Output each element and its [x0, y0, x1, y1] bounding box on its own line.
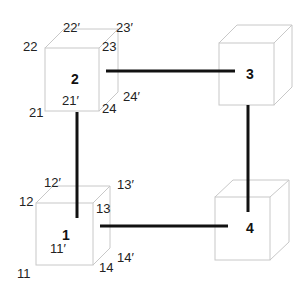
- cube-2-label: 2: [71, 71, 79, 87]
- corner-label-22: 22: [23, 39, 37, 54]
- cube-4-label: 4: [246, 220, 254, 236]
- cube-3: [219, 25, 292, 105]
- corner-label-22p: 22′: [63, 20, 80, 35]
- diagram-canvas: 2 3 1 4 21 21′ 22 22′ 23 23′ 24 24′ 11 1…: [0, 0, 307, 294]
- cube-3-side-face: [274, 25, 292, 105]
- cube-3-top-face: [219, 25, 292, 43]
- corner-label-12: 12: [19, 194, 33, 209]
- corner-label-24p: 24′: [123, 89, 140, 104]
- corner-label-13p: 13′: [117, 177, 134, 192]
- corner-label-11: 11: [17, 266, 31, 281]
- corner-label-14: 14: [99, 260, 113, 275]
- corner-label-24: 24: [102, 101, 116, 116]
- corner-label-21p: 21′: [62, 93, 79, 108]
- corner-label-21: 21: [29, 105, 43, 120]
- corner-label-12p: 12′: [44, 175, 61, 190]
- corner-label-11p: 11′: [50, 241, 66, 256]
- cube-4-side-face: [270, 180, 289, 260]
- corner-label-14p: 14′: [117, 250, 134, 265]
- corner-label-23p: 23′: [116, 20, 133, 35]
- cube-1: [36, 186, 110, 265]
- cube-4-front-face: [215, 197, 270, 260]
- corner-label-23: 23: [102, 39, 116, 54]
- cube-3-label: 3: [246, 66, 254, 82]
- cube-4-top-face: [215, 180, 289, 197]
- corner-label-13: 13: [96, 201, 110, 216]
